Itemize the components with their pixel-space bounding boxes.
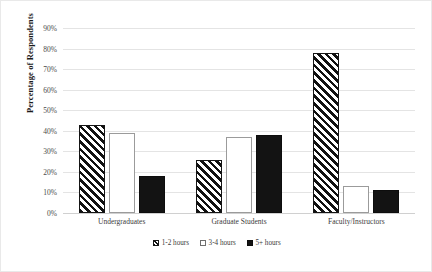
legend-item[interactable]: 3-4 hours bbox=[200, 239, 236, 247]
bar-group bbox=[298, 28, 415, 213]
bar[interactable] bbox=[373, 190, 399, 213]
y-tick-label: 70% bbox=[23, 65, 57, 74]
bar-group bbox=[180, 28, 297, 213]
bar-group bbox=[63, 28, 180, 213]
x-tick-label: Graduate Students bbox=[180, 217, 297, 226]
gridline bbox=[63, 213, 415, 214]
legend-swatch-icon bbox=[247, 240, 253, 246]
legend-item[interactable]: 1-2 hours bbox=[153, 239, 189, 247]
y-tick-label: 90% bbox=[23, 24, 57, 33]
x-tick-label: Undergraduates bbox=[63, 217, 180, 226]
legend-label: 3-4 hours bbox=[209, 239, 236, 247]
bar[interactable] bbox=[313, 53, 339, 213]
legend-swatch-icon bbox=[153, 240, 159, 246]
bar[interactable] bbox=[109, 133, 135, 213]
legend-swatch-icon bbox=[200, 240, 206, 246]
y-tick-label: 30% bbox=[23, 147, 57, 156]
bar[interactable] bbox=[139, 176, 165, 213]
bar-group-bars bbox=[63, 28, 180, 213]
chart-figure: Percentage of Respondents 0%10%20%30%40%… bbox=[0, 0, 432, 272]
y-tick-label: 20% bbox=[23, 167, 57, 176]
y-tick-label: 10% bbox=[23, 188, 57, 197]
bar[interactable] bbox=[256, 135, 282, 213]
bar-groups bbox=[63, 28, 415, 213]
legend-label: 5+ hours bbox=[255, 239, 280, 247]
bar[interactable] bbox=[79, 125, 105, 213]
y-tick-label: 40% bbox=[23, 126, 57, 135]
legend-item[interactable]: 5+ hours bbox=[247, 239, 281, 247]
legend-label: 1-2 hours bbox=[162, 239, 189, 247]
plot-area bbox=[63, 28, 415, 213]
y-tick-label: 0% bbox=[23, 209, 57, 218]
bar[interactable] bbox=[226, 137, 252, 213]
y-tick-label: 60% bbox=[23, 85, 57, 94]
x-tick-label: Faculty/Instructors bbox=[298, 217, 415, 226]
chart-legend: 1-2 hours3-4 hours5+ hours bbox=[1, 239, 432, 247]
bar[interactable] bbox=[343, 186, 369, 213]
bar[interactable] bbox=[196, 160, 222, 213]
x-axis-category-labels: UndergraduatesGraduate StudentsFaculty/I… bbox=[63, 217, 415, 226]
bar-group-bars bbox=[298, 28, 415, 213]
y-tick-label: 80% bbox=[23, 44, 57, 53]
bar-group-bars bbox=[180, 28, 297, 213]
y-tick-label: 50% bbox=[23, 106, 57, 115]
